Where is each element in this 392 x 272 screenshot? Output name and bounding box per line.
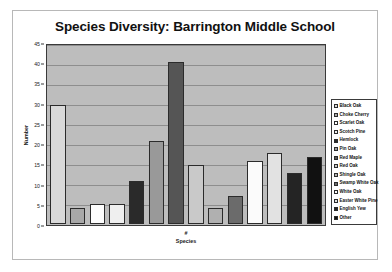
- legend-item[interactable]: Black Oak: [334, 102, 375, 111]
- legend-item[interactable]: Pin Oak: [334, 145, 375, 154]
- x-axis-label: # Species: [46, 229, 326, 245]
- legend-item[interactable]: Swamp White Oak: [334, 179, 375, 188]
- legend-item-label: Shingle Oak: [340, 173, 366, 178]
- bar-slot: [166, 46, 186, 224]
- bar[interactable]: [307, 157, 322, 224]
- bar[interactable]: [109, 204, 124, 224]
- legend-swatch: [334, 104, 338, 108]
- legend-item[interactable]: White Oak: [334, 188, 375, 197]
- x-axis-label-line2: Species: [46, 237, 326, 245]
- bar-slot: [304, 46, 324, 224]
- bar[interactable]: [208, 208, 223, 224]
- y-axis-tick-mark: [41, 226, 44, 227]
- x-axis-label-line1: #: [46, 229, 326, 237]
- legend-swatch: [334, 121, 338, 125]
- legend-item-label: Choke Cherry: [340, 113, 370, 118]
- bar-slot: [225, 46, 245, 224]
- legend-swatch: [334, 199, 338, 203]
- legend-item-label: Easter White Pine: [340, 199, 378, 204]
- y-axis-tick-mark: [41, 205, 44, 206]
- legend-item-label: Red Maple: [340, 156, 363, 161]
- y-axis-ticks: 051015202530354045: [20, 44, 44, 226]
- chart-title: Species Diversity: Barrington Middle Sch…: [13, 19, 377, 34]
- y-axis-tick-mark: [41, 64, 44, 65]
- legend-item-label: Other: [340, 216, 352, 221]
- legend-swatch: [334, 173, 338, 177]
- bar-series: [48, 46, 324, 224]
- bar[interactable]: [50, 105, 65, 224]
- y-axis-tick-mark: [41, 145, 44, 146]
- legend-item[interactable]: Easter White Pine: [334, 197, 375, 206]
- legend-item-label: Scotch Pine: [340, 130, 366, 135]
- bar[interactable]: [247, 161, 262, 224]
- y-axis-tick-label: 5: [37, 203, 40, 209]
- legend-item[interactable]: English Yew: [334, 205, 375, 214]
- bar[interactable]: [228, 196, 243, 224]
- legend-item-label: Hemlock: [340, 138, 359, 143]
- y-axis-tick-mark: [41, 84, 44, 85]
- bar-slot: [147, 46, 167, 224]
- y-axis-tick-label: 30: [34, 102, 40, 108]
- legend-swatch: [334, 190, 338, 194]
- bar[interactable]: [90, 204, 105, 224]
- bar-slot: [48, 46, 68, 224]
- legend-item[interactable]: Scotch Pine: [334, 128, 375, 137]
- legend-item-label: Swamp White Oak: [340, 181, 379, 186]
- legend-item[interactable]: Red Oak: [334, 162, 375, 171]
- y-axis-tick-label: 45: [34, 41, 40, 47]
- bar[interactable]: [267, 153, 282, 224]
- legend-item[interactable]: Choke Cherry: [334, 111, 375, 120]
- legend-item[interactable]: Red Maple: [334, 154, 375, 163]
- bar-slot: [68, 46, 88, 224]
- legend-swatch: [334, 113, 338, 117]
- legend-item-label: Black Oak: [340, 104, 362, 109]
- legend-swatch: [334, 147, 338, 151]
- chart-card: Species Diversity: Barrington Middle Sch…: [12, 10, 378, 260]
- bar-slot: [127, 46, 147, 224]
- bar[interactable]: [168, 62, 183, 224]
- legend-item-label: Scarlet Oak: [340, 121, 365, 126]
- plot-wrapper: 051015202530354045: [46, 44, 326, 226]
- y-axis-tick-mark: [41, 185, 44, 186]
- y-axis-tick-mark: [41, 104, 44, 105]
- legend-item-label: White Oak: [340, 190, 362, 195]
- plot-area: [46, 44, 326, 226]
- legend-item-label: Pin Oak: [340, 147, 357, 152]
- y-axis-tick-label: 25: [34, 122, 40, 128]
- bar-slot: [285, 46, 305, 224]
- legend-item[interactable]: Hemlock: [334, 136, 375, 145]
- legend-item[interactable]: Other: [334, 214, 375, 223]
- bar-slot: [87, 46, 107, 224]
- legend-swatch: [334, 156, 338, 160]
- bar[interactable]: [287, 173, 302, 224]
- legend-item[interactable]: Shingle Oak: [334, 171, 375, 180]
- legend-swatch: [334, 216, 338, 220]
- bar-slot: [107, 46, 127, 224]
- bar[interactable]: [129, 181, 144, 225]
- bar-slot: [245, 46, 265, 224]
- y-axis-tick-mark: [41, 165, 44, 166]
- bar-slot: [265, 46, 285, 224]
- y-axis-tick-label: 0: [37, 223, 40, 229]
- bar[interactable]: [188, 165, 203, 224]
- bar-slot: [206, 46, 226, 224]
- legend-swatch: [334, 182, 338, 186]
- legend-item[interactable]: Scarlet Oak: [334, 119, 375, 128]
- chart-legend: Black OakChoke CherryScarlet OakScotch P…: [331, 99, 377, 225]
- y-axis-tick-mark: [41, 124, 44, 125]
- legend-item-label: Red Oak: [340, 164, 358, 169]
- y-axis-tick-label: 20: [34, 142, 40, 148]
- y-axis-tick-label: 15: [34, 162, 40, 168]
- legend-swatch: [334, 130, 338, 134]
- legend-item-label: English Yew: [340, 207, 366, 212]
- bar-slot: [186, 46, 206, 224]
- y-axis-tick-mark: [41, 44, 44, 45]
- legend-swatch: [334, 139, 338, 143]
- y-axis-tick-label: 35: [34, 81, 40, 87]
- bar[interactable]: [70, 208, 85, 224]
- y-axis-tick-label: 40: [34, 61, 40, 67]
- y-axis-tick-label: 10: [34, 183, 40, 189]
- bar[interactable]: [149, 141, 164, 224]
- legend-swatch: [334, 207, 338, 211]
- legend-swatch: [334, 164, 338, 168]
